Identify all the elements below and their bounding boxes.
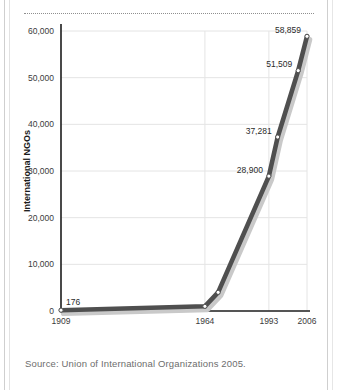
data-point-marker	[216, 290, 220, 294]
x-axis-tick-label: 1964	[195, 316, 214, 326]
source-caption: Source: Union of International Organizat…	[25, 358, 325, 369]
y-axis-tick-label: 50,000	[28, 73, 54, 83]
y-axis-tick-label: 0	[49, 306, 54, 316]
x-axis-tick-label: 2006	[298, 316, 317, 326]
x-axis-tick-labels: 1909196419932006	[52, 316, 317, 326]
data-point-marker	[296, 69, 300, 73]
data-point-marker	[267, 174, 271, 178]
data-point-value-label: 51,509	[266, 59, 292, 69]
data-point-value-label: 37,281	[246, 126, 272, 136]
ngo-growth-line-chart: 010,00020,00030,00040,00050,00060,000 19…	[0, 20, 337, 345]
data-point-marker	[276, 135, 280, 139]
data-point-marker	[203, 304, 207, 308]
data-point-value-label: 58,859	[275, 25, 301, 35]
chart-svg: 010,00020,00030,00040,00050,00060,000 19…	[0, 20, 337, 345]
x-axis-tick-label: 1909	[52, 316, 71, 326]
x-axis-tick-label: 1993	[259, 316, 278, 326]
series-shadow-path	[64, 40, 310, 314]
y-axis-tick-label: 40,000	[28, 119, 54, 129]
data-point-marker	[59, 308, 63, 312]
data-point-marker	[305, 34, 309, 38]
y-axis-tick-label: 10,000	[28, 259, 54, 269]
y-axis-tick-label: 20,000	[28, 213, 54, 223]
page-canvas: 010,00020,00030,00040,00050,00060,000 19…	[0, 0, 337, 390]
data-point-value-label: 176	[66, 297, 80, 307]
top-dotted-divider	[24, 13, 314, 14]
data-point-value-label: 28,900	[237, 165, 263, 175]
y-axis-tick-label: 60,000	[28, 26, 54, 36]
y-axis-title: International NGOs	[22, 130, 32, 212]
